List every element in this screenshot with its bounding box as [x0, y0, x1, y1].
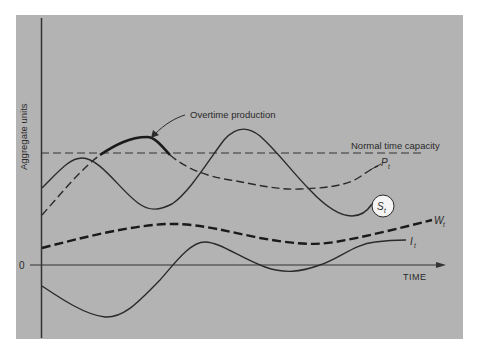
- svg-text:t: t: [414, 242, 417, 249]
- workforce-series-label: W t: [434, 215, 446, 228]
- inventory-curve: [42, 240, 406, 317]
- overtime-pointer: [155, 115, 185, 134]
- capacity-label: Normal time capacity: [351, 140, 440, 151]
- x-axis-label: TIME: [403, 272, 427, 282]
- inventory-series-label: I t: [410, 236, 417, 249]
- diagram-canvas: Aggregate units 0 TIME Overtime producti…: [0, 0, 479, 353]
- origin-label: 0: [19, 260, 25, 271]
- svg-text:t: t: [388, 163, 391, 170]
- workforce-curve: [42, 220, 432, 248]
- svg-text:I: I: [410, 236, 413, 247]
- svg-text:S: S: [377, 201, 384, 212]
- overtime-label: Overtime production: [190, 109, 276, 120]
- x-axis-arrow-icon: [436, 262, 446, 268]
- overtime-production-segment: [100, 137, 170, 155]
- svg-text:P: P: [381, 157, 388, 168]
- sales-curve: [42, 129, 372, 216]
- production-curve-start: [42, 155, 100, 215]
- svg-text:t: t: [443, 221, 446, 228]
- production-series-label: P t: [381, 157, 391, 170]
- production-leader: [370, 164, 381, 170]
- y-axis-label: Aggregate units: [18, 103, 29, 170]
